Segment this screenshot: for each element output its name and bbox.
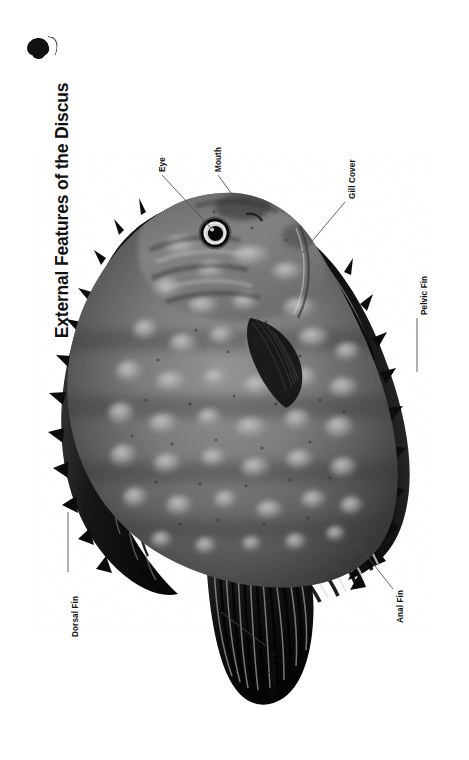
label-anal-fin: Anal Fin xyxy=(396,590,405,623)
label-eye: Eye xyxy=(158,157,167,172)
leader-caudal-fin xyxy=(221,612,266,646)
leader-eye xyxy=(162,175,212,229)
leader-lines xyxy=(0,0,469,760)
leader-mouth xyxy=(218,175,246,214)
label-mouth: Mouth xyxy=(214,147,223,172)
label-gill-cover: Gill Cover xyxy=(348,159,357,199)
label-caudal-fin: Caudal Fin xyxy=(269,649,278,692)
leader-gill-cover xyxy=(302,202,345,253)
leader-anal-fin xyxy=(356,542,393,589)
label-dorsal-fin: Dorsal Fin xyxy=(71,596,80,637)
page-canvas: External Features of the Discus xyxy=(0,0,469,760)
label-pelvic-fin: Pelvic Fin xyxy=(420,276,429,315)
